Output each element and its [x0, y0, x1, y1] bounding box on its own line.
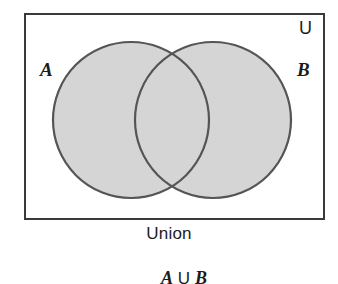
caption-expression: A U B: [0, 245, 338, 284]
venn-diagram-figure: A B U Union A U B: [0, 0, 338, 284]
figure-caption: Union A U B: [0, 224, 338, 284]
universal-set-label: U: [299, 19, 312, 37]
caption-title: Union: [0, 224, 338, 244]
caption-operand-left: A: [161, 268, 173, 284]
caption-operand-right: B: [195, 268, 207, 284]
set-b-label: B: [297, 60, 310, 79]
set-a-label: A: [40, 60, 53, 79]
venn-circles: [24, 13, 325, 220]
caption-operator-symbol: U: [178, 269, 190, 284]
